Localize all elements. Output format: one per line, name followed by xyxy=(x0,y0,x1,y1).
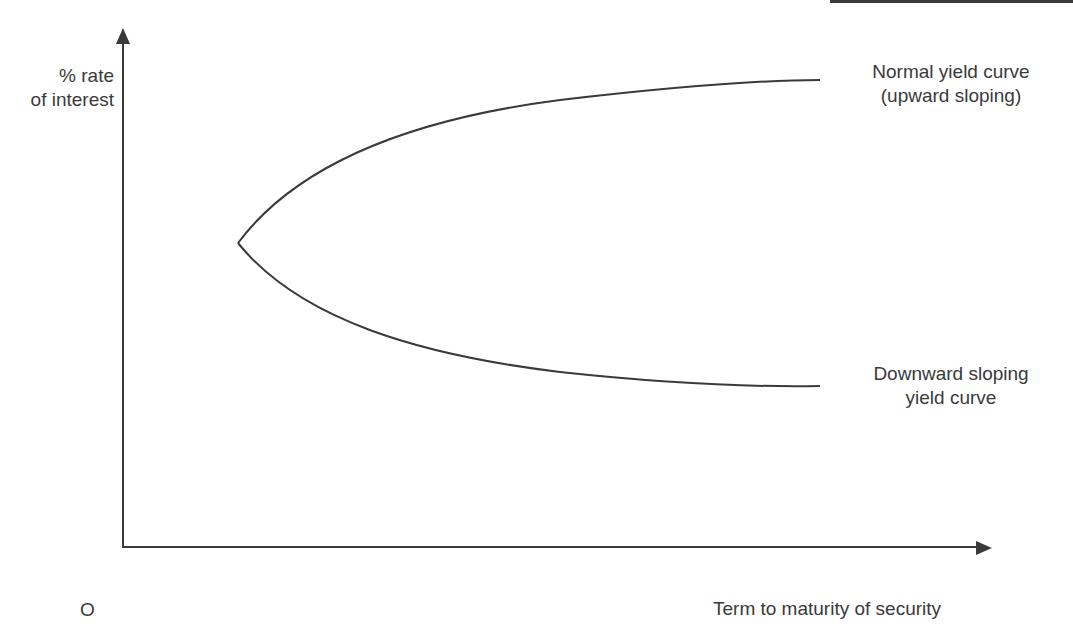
origin-label: O xyxy=(80,598,95,622)
downward-yield-curve-label: Downward sloping yield curve xyxy=(846,362,1056,410)
x-axis-label: Term to maturity of security xyxy=(713,597,941,621)
downward-yield-curve xyxy=(238,243,820,386)
normal-yield-curve xyxy=(238,80,820,243)
downward-label-line1: Downward sloping xyxy=(846,362,1056,386)
normal-label-line2: (upward sloping) xyxy=(846,84,1056,108)
normal-yield-curve-label: Normal yield curve (upward sloping) xyxy=(846,60,1056,108)
downward-label-line2: yield curve xyxy=(846,386,1056,410)
x-axis-arrow-icon xyxy=(976,541,992,555)
normal-label-line1: Normal yield curve xyxy=(846,60,1056,84)
y-axis-label-line1: % rate xyxy=(10,64,114,88)
y-axis-arrow-icon xyxy=(116,28,130,44)
y-axis-label: % rate of interest xyxy=(10,64,114,112)
y-axis-label-line2: of interest xyxy=(10,88,114,112)
